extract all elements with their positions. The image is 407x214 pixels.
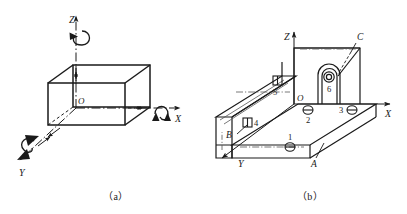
origin-label-a: O [78, 96, 85, 106]
marker-label-4: 4 [254, 118, 259, 128]
marker-label-2: 2 [306, 115, 310, 125]
axis-label-x-b: X [384, 108, 392, 119]
rotation-symbol-y-icon [17, 135, 39, 160]
box-back-face [73, 65, 150, 107]
marker-2-icon [303, 106, 313, 114]
box-edge-br [125, 107, 150, 125]
box-front-face [48, 83, 125, 125]
marker-label-1: 1 [288, 132, 292, 142]
marker-4-icon [243, 118, 252, 127]
datum-label-c: C [357, 32, 364, 42]
axis-label-y-a: Y [19, 167, 26, 178]
origin-label-b: O [297, 93, 304, 103]
axis-label-y-b: Y [238, 158, 245, 169]
marker-label-3: 3 [339, 105, 343, 115]
part-left-wall [216, 62, 296, 158]
view-a-axes [20, 16, 180, 160]
rotation-symbol-x-icon [152, 107, 171, 122]
leader-c-tail [338, 52, 351, 74]
marker-1-icon [285, 143, 295, 151]
caption-b: （b） [290, 188, 330, 203]
back-plate-corner-diag [338, 48, 360, 76]
datum-label-a: A [310, 159, 317, 169]
axis-label-z-a: Z [69, 14, 75, 25]
box-edge-tr [125, 65, 150, 83]
engineering-drawing-figure: Z X Y O [0, 0, 407, 214]
marker-label-6: 6 [327, 84, 331, 94]
view-a-group: Z X Y O [17, 14, 182, 178]
slab-right-edge [310, 117, 376, 158]
hole-circle-6-inner-icon [326, 74, 331, 79]
view-b-group: 1 2 3 4 5 6 A B C Z X Y O [216, 31, 392, 169]
marker-label-5: 5 [273, 87, 277, 97]
view-b-axes [222, 32, 390, 158]
axis-label-z-b: Z [284, 31, 290, 42]
caption-a: （a） [96, 188, 136, 203]
view-a-box [48, 65, 150, 125]
hole-circle-6-icon [324, 72, 334, 82]
left-wall-top [216, 76, 296, 117]
groove-line-1 [220, 80, 284, 120]
leader-b [237, 125, 247, 134]
axis-label-x-a: X [174, 113, 182, 124]
box-edge-tl [48, 65, 73, 83]
datum-label-b: B [226, 130, 232, 140]
marker-3-icon [347, 106, 357, 114]
rotation-symbol-z-icon [70, 31, 90, 45]
